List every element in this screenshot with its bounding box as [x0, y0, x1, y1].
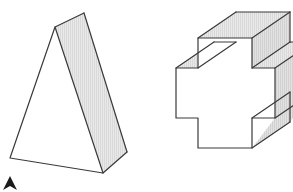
- figure-triangular-prism: [10, 13, 127, 173]
- solid-figures-illustration: [0, 0, 293, 192]
- figure-cross-shaped-prism: [176, 12, 293, 148]
- mouse-cursor-arrowhead: [3, 176, 17, 190]
- mouse-cursor-icon: [3, 176, 17, 190]
- diagram-canvas: [0, 0, 293, 192]
